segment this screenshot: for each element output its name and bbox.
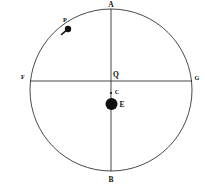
geometry-figure: A B F G Q C E P: [0, 0, 205, 191]
label-a: A: [108, 0, 114, 9]
diagram-canvas: A B F G Q C E P: [0, 0, 205, 191]
point-e-marker-icon[interactable]: [106, 98, 118, 110]
point-c-marker-icon[interactable]: [110, 92, 112, 94]
figure-background: [0, 0, 205, 191]
label-p: P: [63, 16, 67, 23]
label-f: F: [21, 73, 25, 80]
label-c: C: [115, 88, 119, 95]
label-b: B: [108, 175, 113, 184]
label-g: G: [195, 74, 200, 81]
label-e: E: [119, 100, 124, 109]
point-p-marker-icon[interactable]: [65, 26, 71, 32]
label-q: Q: [113, 70, 119, 79]
